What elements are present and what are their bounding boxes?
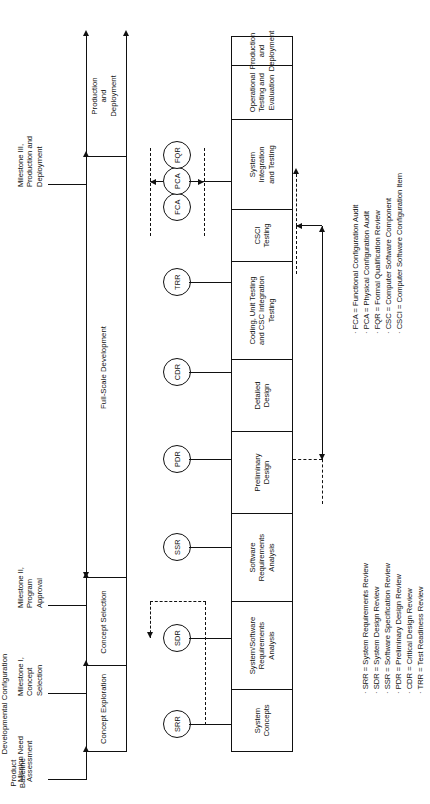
phase-label-full-scale-development: Full-Scale Development	[99, 157, 108, 578]
milestone-1-line2: Concept	[25, 606, 34, 696]
legend-reviews: · SRR = System Requirements Review · SDR…	[360, 563, 426, 694]
activity-box-coding-unit-testing[interactable]: Coding, Unit Testing and CSC Integration…	[232, 261, 292, 359]
activity-4-line1: Detailed	[253, 382, 262, 410]
milestone-label-milestone-2: Milestone II, Program Approval	[16, 518, 44, 608]
review-stem-trr	[189, 282, 231, 283]
legend-audit-pca: · PCA = Physical Configuration Audit	[361, 173, 372, 334]
milestone-stem-1	[48, 693, 86, 694]
activity-9-line1: Production	[248, 31, 257, 72]
activity-6-line2: Testing	[262, 223, 271, 247]
activity-3-line2: Design	[262, 454, 271, 492]
phase-rail-upper-arrow	[83, 30, 89, 36]
milestone-label-milestone-1: Milestone I, Concept Selection	[16, 606, 44, 696]
phase-label-pd-line3: Deployment	[109, 37, 118, 155]
milestone-arm-mission-need	[86, 752, 87, 780]
legend-review-ssr: · SSR = Software Specification Review	[382, 563, 393, 694]
review-circle-pca[interactable]: PCA	[163, 167, 191, 195]
activity-box-production-and-deployment[interactable]: Production and Deployment	[232, 37, 292, 65]
activity-7-line1: System	[248, 145, 257, 184]
milestone-3-line1: Milestone III,	[16, 77, 25, 187]
milestone-2-line1: Milestone II,	[16, 518, 25, 608]
activity-1-line3: Analysis	[267, 617, 276, 674]
legend-review-cdr: · CDR = Critical Design Review	[404, 563, 415, 694]
activity-box-csci-testing[interactable]: CSCI Testing	[232, 209, 292, 261]
phase-label-pd-line1: Production	[90, 37, 99, 155]
review-circle-pdr[interactable]: PDR	[163, 445, 191, 473]
figure-page: Mission Need Assessment Milestone I, Con…	[0, 0, 430, 804]
legend-audit-fqr: · FQR = Formal Qualification Review	[372, 173, 383, 334]
activity-2-line3: Analysis	[267, 534, 276, 581]
milestone-mission-need-line1: Mission Need	[16, 692, 25, 782]
activity-5-line2: and CSC Integration	[257, 276, 266, 345]
activity-4-line2: Design	[262, 382, 271, 410]
audit-bracket-arrow-top	[150, 179, 156, 185]
legend-review-pdr: · PDR = Preliminary Design Review	[393, 563, 404, 694]
activity-2-line1: Software	[248, 534, 257, 581]
milestone-3-line3: Deployment	[35, 77, 44, 187]
activity-6-line1: CSCI	[253, 223, 262, 247]
activity-2-line2: Requirements	[257, 534, 266, 581]
review-stem-ssr	[189, 547, 231, 548]
audit-bracket-top	[150, 148, 151, 236]
activity-5-line1: Coding, Unit Testing	[248, 276, 257, 345]
devconfig-arrow-left	[319, 454, 325, 460]
activity-7-line3: and Testing	[267, 145, 276, 184]
review-stem-sdr	[189, 638, 231, 639]
audit-bracket-arrow-bottom	[198, 179, 204, 185]
activity-8-line1: Operational	[248, 73, 257, 112]
feedback-path-riser	[150, 601, 206, 602]
review-circle-fqr[interactable]: FQR	[163, 141, 191, 169]
devconfig-left-tick	[293, 459, 322, 460]
phase-label-concept-exploration: Concept Exploration	[99, 666, 108, 752]
activity-9-line2: and	[257, 31, 266, 72]
legend-review-trr: · TRR = Test Readiness Review	[415, 563, 426, 694]
feedback-path-srr-tail	[189, 724, 205, 725]
milestone-stem-3	[48, 184, 86, 185]
milestone-stem-2	[48, 605, 86, 606]
feedback-path-bottom	[205, 602, 206, 725]
feedback-arrow-production	[83, 572, 89, 578]
review-circle-cdr[interactable]: CDR	[163, 358, 191, 386]
milestone-3-line2: Production and	[25, 77, 34, 187]
product-baseline-dash-right	[296, 174, 297, 226]
activity-8-line3: Evaluation	[267, 73, 276, 112]
legend-audit-fca: · FCA = Functional Configuration Audit	[350, 173, 361, 334]
legend-review-sdr: · SDR = System Design Review	[371, 563, 382, 694]
activity-box-software-requirements-analysis[interactable]: Software Requirements Analysis	[232, 513, 292, 601]
activity-1-line1: System/Software	[248, 617, 257, 674]
activity-box-operational-testing-and-evaluation[interactable]: Operational Testing and Evaluation	[232, 65, 292, 119]
milestone-2-line2: Program	[25, 518, 34, 608]
review-circle-sdr[interactable]: SDR	[163, 624, 191, 652]
phase-label-production-and-deployment: Production and Deployment	[90, 37, 118, 155]
feedback-path-production-to-milestone2	[86, 157, 87, 578]
activity-box-system-integration-and-testing[interactable]: System Integration and Testing	[232, 119, 292, 209]
devconfig-left-dash	[322, 454, 323, 504]
activity-8-line2: Testing and	[257, 73, 266, 112]
review-circle-ssr[interactable]: SSR	[163, 533, 191, 561]
milestone-stem-mission-need	[48, 779, 86, 780]
phase-label-pd-line2: and	[99, 37, 108, 155]
phase-label-concept-selection: Concept Selection	[99, 578, 108, 666]
activity-box-system-concepts[interactable]: System Concepts	[232, 689, 292, 751]
activity-box-detailed-design[interactable]: Detailed Design	[232, 359, 292, 431]
activity-3-line1: Preliminary	[253, 454, 262, 492]
activity-box-system-software-requirements-analysis[interactable]: System/Software Requirements Analysis	[232, 601, 292, 689]
milestone-label-milestone-3: Milestone III, Production and Deployment	[16, 77, 44, 187]
devconfig-rail	[322, 226, 323, 460]
activity-7-line2: Integration	[257, 145, 266, 184]
activity-9-line3: Deployment	[267, 31, 276, 72]
legend-audit-csci: · CSCI = Computer Software Configuration…	[394, 173, 405, 334]
phase-rail-lower-arrow	[123, 30, 129, 36]
milestone-2-line3: Approval	[35, 518, 44, 608]
review-circle-fca[interactable]: FCA	[163, 193, 191, 221]
review-stem-pdr	[189, 459, 231, 460]
review-circle-trr[interactable]: TRR	[163, 268, 191, 296]
activity-1-line2: Requirements	[257, 617, 266, 674]
product-baseline-arrow	[293, 168, 299, 174]
review-stem-cdr	[189, 372, 231, 373]
diagram-canvas: Mission Need Assessment Milestone I, Con…	[0, 0, 430, 804]
activity-0-line2: Concepts	[262, 704, 271, 736]
review-circle-srr[interactable]: SRR	[163, 710, 191, 738]
activity-box-preliminary-design[interactable]: Preliminary Design	[232, 431, 292, 513]
milestone-label-mission-need: Mission Need Assessment	[16, 692, 35, 782]
